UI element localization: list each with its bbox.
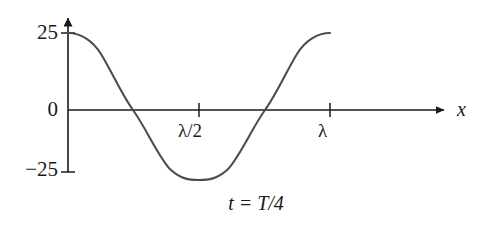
y-tick-label-0: 0 xyxy=(12,99,58,120)
x-axis-label: x xyxy=(457,99,466,119)
figure-caption: t = T/4 xyxy=(196,193,316,213)
y-tick-label-neg25: −25 xyxy=(2,159,58,180)
x-tick-label-lambda: λ xyxy=(318,121,327,140)
wave-figure: 25 0 −25 λ/2 λ x t = T/4 xyxy=(0,0,480,227)
y-tick-label-25: 25 xyxy=(12,22,58,43)
x-tick-label-half-lambda: λ/2 xyxy=(178,121,202,140)
